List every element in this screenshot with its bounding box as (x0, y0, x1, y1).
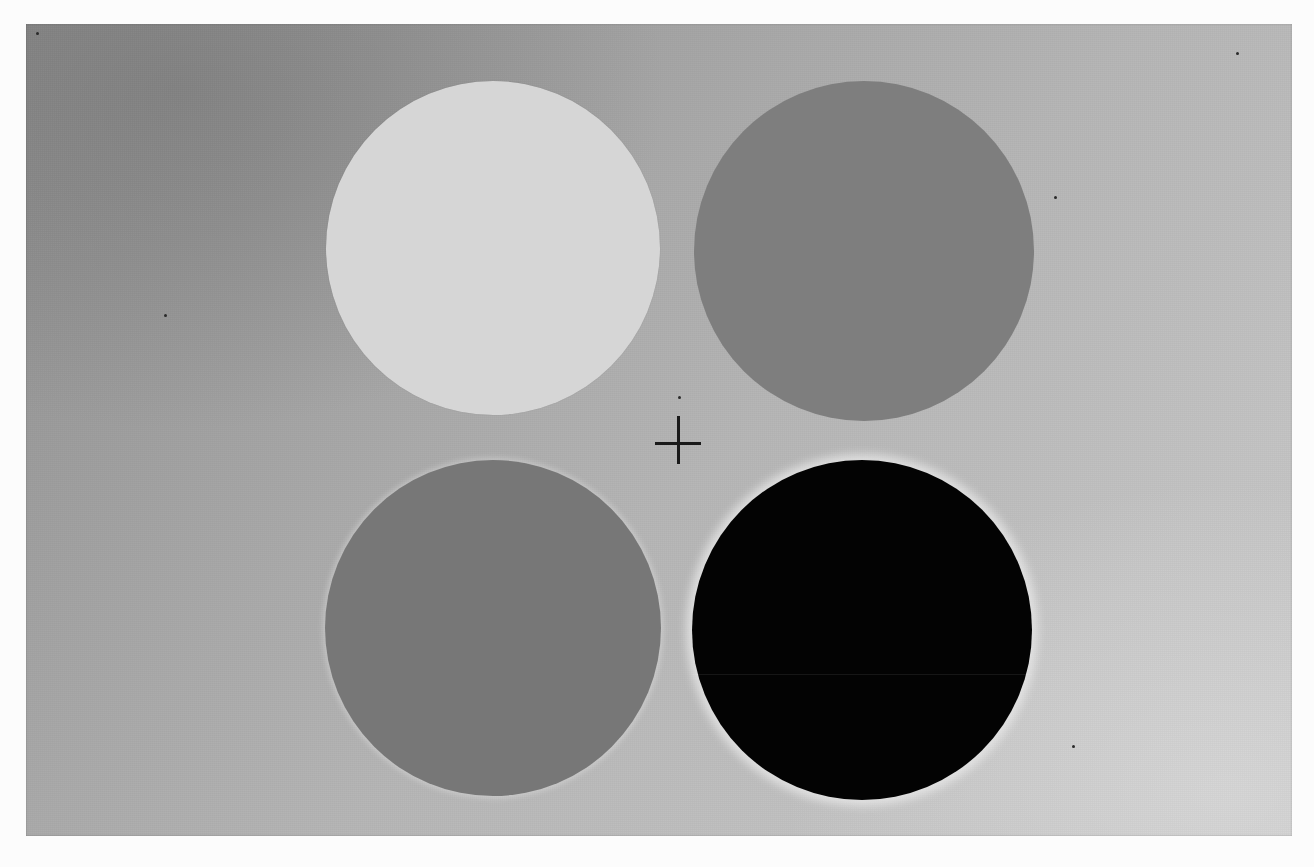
stimulus-panel (26, 24, 1292, 836)
dust-speck (36, 32, 39, 35)
scan-seam (692, 674, 1032, 675)
dust-speck (1054, 196, 1057, 199)
scanned-plate (0, 0, 1314, 867)
dust-speck (678, 396, 681, 399)
fixation-vertical-bar (677, 416, 680, 464)
black-circle (692, 460, 1032, 800)
dust-speck (1236, 52, 1239, 55)
mid-gray-circle-top (694, 81, 1034, 421)
dust-speck (164, 314, 167, 317)
light-gray-circle (326, 81, 660, 415)
mid-gray-circle-bottom (325, 460, 661, 796)
paper-texture (26, 24, 1292, 836)
dust-speck (1072, 745, 1075, 748)
